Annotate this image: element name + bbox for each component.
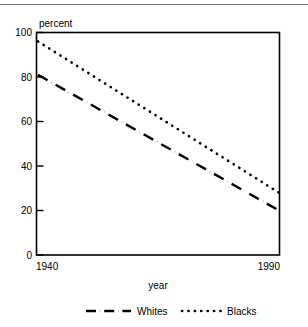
line-chart: percent 100 80 60 40 20 0 1940 1990 year bbox=[0, 0, 308, 327]
legend-label-blacks: Blacks bbox=[227, 306, 256, 317]
y-tick-label-80: 80 bbox=[21, 72, 33, 83]
series-line-blacks bbox=[38, 41, 279, 192]
plot-frame bbox=[37, 33, 280, 256]
x-tick-label-1940: 1940 bbox=[36, 261, 59, 272]
y-tick-label-20: 20 bbox=[21, 205, 33, 216]
x-tick-label-1990: 1990 bbox=[258, 261, 281, 272]
series-line-whites bbox=[38, 75, 279, 211]
legend: Whites Blacks bbox=[86, 306, 256, 317]
y-tick-label-60: 60 bbox=[21, 116, 33, 127]
y-tick-label-100: 100 bbox=[15, 27, 32, 38]
y-axis-ticks bbox=[37, 33, 44, 256]
x-axis-title: year bbox=[148, 280, 168, 291]
figure-container: percent 100 80 60 40 20 0 1940 1990 year bbox=[0, 0, 308, 327]
y-tick-label-0: 0 bbox=[26, 250, 32, 261]
legend-label-whites: Whites bbox=[137, 306, 168, 317]
y-tick-label-40: 40 bbox=[21, 161, 33, 172]
y-axis-title: percent bbox=[39, 18, 73, 29]
